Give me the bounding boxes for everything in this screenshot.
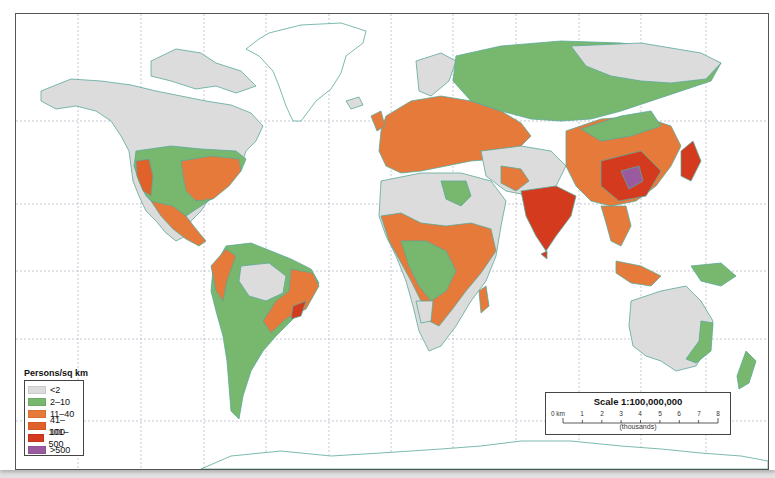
scale-tick: 5 <box>658 410 662 417</box>
scale-tick: 8 <box>716 410 720 417</box>
scale-tick: 6 <box>677 410 681 417</box>
legend-swatch <box>28 434 44 442</box>
antarctica <box>201 441 768 469</box>
legend-swatch <box>28 422 46 430</box>
new-zealand <box>737 351 756 389</box>
indonesia <box>616 261 661 286</box>
arctic-islands <box>151 49 256 93</box>
scale-tick: 7 <box>697 410 701 417</box>
japan <box>681 141 701 181</box>
legend-item: 2–10 <box>28 396 80 408</box>
scale-tick: 0 km <box>551 410 565 417</box>
legend-item: 101–500 <box>28 432 80 444</box>
scale-tick: 4 <box>638 410 642 417</box>
indochina <box>601 206 631 246</box>
scale-bar: Scale 1:100,000,000 0 km 1 2 3 4 5 6 7 8… <box>545 392 731 435</box>
legend-swatch <box>28 446 46 454</box>
new-guinea <box>691 263 736 286</box>
india <box>521 186 576 251</box>
legend-title: Persons/sq km <box>24 368 88 378</box>
scale-tick: 3 <box>619 410 623 417</box>
legend-swatch <box>28 398 46 406</box>
scale-units: (thousands) <box>546 423 730 430</box>
legend-label: >500 <box>50 444 70 456</box>
legend-item: <2 <box>28 384 80 396</box>
legend-swatch <box>28 386 46 394</box>
legend-label: <2 <box>50 384 60 396</box>
sri-lanka <box>541 251 547 259</box>
iceland <box>346 97 363 109</box>
scale-tick: 2 <box>600 410 604 417</box>
legend: <2 2–10 11–40 41–100 101–500 >500 <box>24 380 84 456</box>
greenland <box>246 23 366 121</box>
usa-east-orange <box>181 156 241 201</box>
legend-swatch <box>28 410 46 418</box>
legend-label: 2–10 <box>50 396 70 408</box>
map-page: Persons/sq km <2 2–10 11–40 41–100 101–5… <box>0 0 775 470</box>
madagascar <box>479 286 489 313</box>
scandinavia <box>416 53 456 96</box>
scale-tick: 1 <box>580 410 584 417</box>
